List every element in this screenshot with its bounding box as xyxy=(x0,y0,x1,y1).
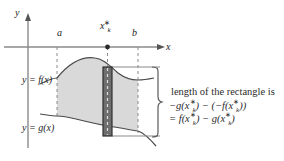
tick-label-a: a xyxy=(57,27,62,38)
curve-label-g: y = g(x) xyxy=(22,122,54,133)
y-axis-arrow xyxy=(25,13,31,21)
anno2-tail: )) xyxy=(239,100,246,111)
anno2-mid: ) − (−f(x xyxy=(196,100,234,111)
anno3-tail: ) xyxy=(231,113,235,124)
annotation-line-1: length of the rectangle is xyxy=(171,86,275,97)
anno3-star1: ∗ xyxy=(190,111,196,119)
anno2-lead: −g(x xyxy=(169,100,190,111)
x-axis-label: x xyxy=(166,41,170,52)
sample-point-dot xyxy=(105,45,110,50)
representative-rectangle xyxy=(103,67,112,136)
annotation-line-3: = f(x∗k) − g(x∗k) xyxy=(169,112,235,127)
anno3-mid: ) − g(x xyxy=(196,113,225,124)
tick-label-b: b xyxy=(132,27,137,38)
tick-label-xk: x∗k xyxy=(100,19,111,34)
tick-label-xk-sub: k xyxy=(107,26,110,34)
curve-label-f: y = f(x) xyxy=(22,74,52,85)
shaded-region xyxy=(57,58,138,131)
x-axis-arrow xyxy=(157,44,165,50)
y-axis-label: y xyxy=(15,7,19,18)
anno3-lead: = f(x xyxy=(169,113,190,124)
anno2-star1: ∗ xyxy=(190,98,196,106)
